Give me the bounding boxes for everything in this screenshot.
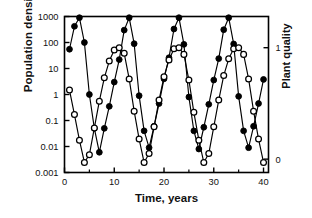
data-point-open: [221, 73, 227, 79]
data-point-filled: [176, 15, 182, 21]
data-point-open: [176, 45, 182, 51]
data-point-filled: [106, 103, 112, 109]
data-point-open: [156, 97, 162, 103]
data-point-filled: [201, 124, 207, 130]
x-tick-label: 0: [62, 177, 67, 187]
data-point-open: [67, 87, 73, 93]
data-point-open: [166, 57, 172, 63]
data-point-filled: [261, 77, 267, 83]
figure: Population density Plant quality Time, y…: [0, 0, 312, 218]
data-point-filled: [77, 15, 83, 21]
data-point-filled: [126, 15, 132, 21]
y-tick-label-right: 1: [276, 43, 281, 53]
data-point-open: [77, 137, 83, 143]
series-line-filled-circle: [69, 18, 263, 153]
data-point-filled: [121, 27, 127, 33]
y-tick-label-left: 0.001: [35, 168, 58, 178]
data-point-open: [161, 74, 167, 80]
data-point-filled: [246, 145, 252, 151]
data-point-filled: [72, 23, 78, 29]
data-point-open: [216, 97, 222, 103]
data-point-open: [126, 76, 132, 82]
data-point-open: [186, 77, 192, 83]
data-point-open: [191, 109, 197, 115]
data-point-open: [136, 136, 142, 142]
data-point-filled: [141, 128, 147, 134]
x-tick-label: 30: [209, 177, 219, 187]
data-point-open: [256, 136, 262, 142]
data-point-filled: [191, 128, 197, 134]
data-point-open: [146, 151, 152, 157]
y-tick-label-right: 0: [276, 155, 281, 165]
data-point-filled: [241, 128, 247, 134]
data-point-filled: [226, 15, 232, 21]
data-point-filled: [82, 40, 88, 46]
series-line-open-circle: [69, 48, 263, 163]
data-point-open: [201, 160, 207, 166]
data-point-filled: [206, 101, 212, 107]
data-point-open: [121, 50, 127, 56]
data-point-open: [251, 108, 257, 114]
data-point-filled: [86, 92, 92, 98]
data-point-open: [196, 137, 202, 143]
data-point-open: [91, 125, 97, 131]
data-point-filled: [211, 77, 217, 83]
data-point-open: [82, 160, 88, 166]
x-tick-label: 10: [109, 177, 119, 187]
data-point-open: [106, 58, 112, 64]
data-point-open: [226, 56, 232, 62]
data-point-open: [151, 124, 157, 130]
data-point-filled: [131, 41, 137, 47]
data-point-filled: [67, 46, 73, 52]
chart-plot-area: 0102030400.0010.010.1110100100001: [0, 0, 312, 218]
y-tick-label-left: 10: [48, 64, 58, 74]
data-point-open: [101, 75, 107, 81]
data-point-filled: [96, 149, 102, 155]
data-point-filled: [216, 56, 222, 62]
data-point-open: [72, 112, 78, 118]
data-point-filled: [136, 93, 142, 99]
data-point-open: [181, 51, 187, 57]
y-tick-label-left: 100: [43, 38, 59, 48]
data-point-open: [246, 76, 252, 82]
data-point-open: [86, 152, 92, 158]
data-point-filled: [171, 26, 177, 32]
y-tick-label-left: 1: [53, 90, 58, 100]
y-tick-label-left: 0.01: [40, 142, 58, 152]
data-point-open: [236, 45, 242, 51]
data-point-open: [96, 98, 102, 104]
x-tick-label: 20: [159, 177, 169, 187]
data-point-open: [141, 160, 147, 166]
y-tick-label-left: 0.1: [46, 116, 59, 126]
data-point-open: [131, 108, 137, 114]
x-tick-label: 40: [258, 177, 268, 187]
data-point-open: [206, 151, 212, 157]
data-point-filled: [221, 27, 227, 33]
data-point-filled: [101, 125, 107, 131]
y-tick-label-left: 1000: [38, 12, 59, 22]
data-point-open: [261, 160, 267, 166]
data-point-filled: [111, 79, 117, 85]
data-point-open: [211, 124, 217, 130]
data-point-filled: [236, 93, 242, 99]
data-point-open: [116, 45, 122, 51]
data-point-filled: [116, 57, 122, 63]
data-point-filled: [256, 101, 262, 107]
data-point-open: [241, 51, 247, 57]
